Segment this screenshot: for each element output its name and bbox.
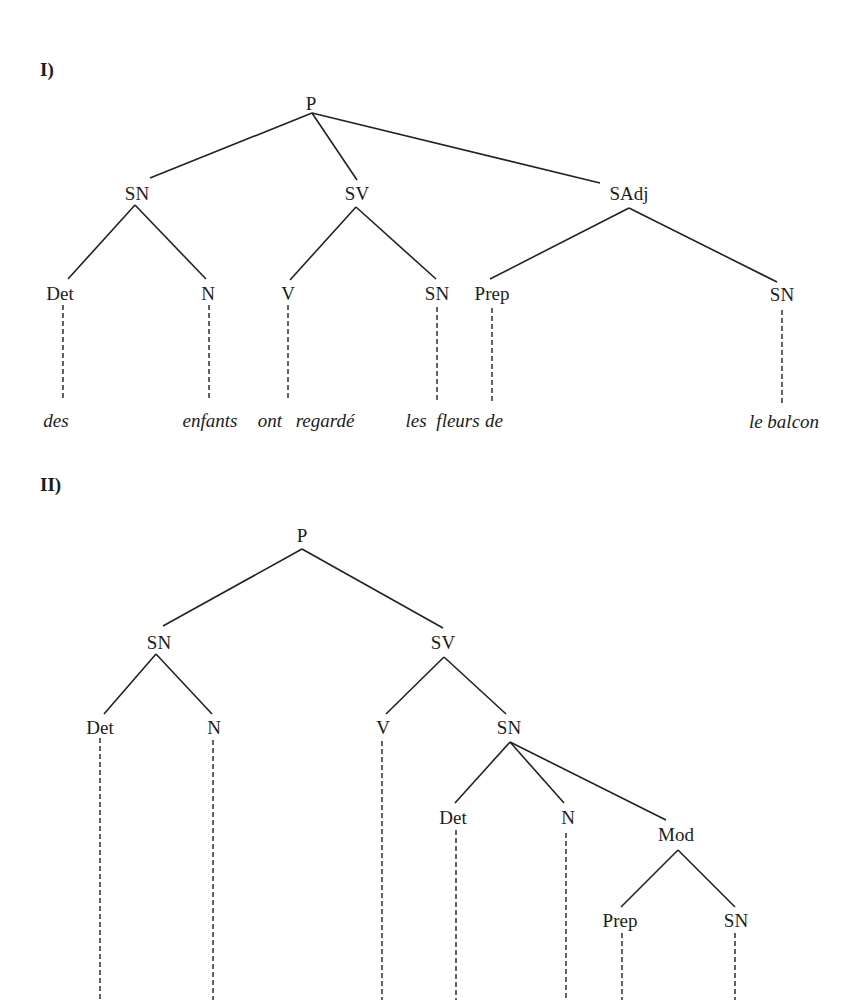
- node-sn2: SN: [497, 718, 521, 737]
- node-sadj: SAdj: [609, 184, 648, 203]
- branch-Mod-Prep: [621, 850, 678, 907]
- node-det: Det: [46, 284, 73, 303]
- branch-SN1-N1: [156, 654, 212, 714]
- node-p: P: [306, 94, 317, 113]
- branch-SV-V: [386, 657, 444, 714]
- node-n2: N: [561, 808, 575, 827]
- terminal-word: regardé: [296, 411, 355, 430]
- section-label-I: I): [40, 60, 54, 79]
- node-prep: Prep: [603, 911, 638, 930]
- branch-SN1-N: [135, 205, 206, 279]
- branch-SN2-Mod: [510, 742, 666, 820]
- node-sv: SV: [345, 184, 369, 203]
- node-det1: Det: [86, 718, 113, 737]
- node-mod: Mod: [658, 825, 694, 844]
- branch-SN1-Det: [68, 205, 135, 279]
- branch-P-SAdj: [312, 113, 600, 183]
- node-n: N: [201, 284, 215, 303]
- node-sn3: SN: [724, 911, 748, 930]
- branch-SN2-N2: [510, 742, 564, 803]
- branch-SAdj-Prep: [490, 208, 629, 279]
- terminal-word: fleurs: [436, 411, 479, 430]
- node-p: P: [297, 526, 308, 545]
- branch-SV-SN2: [444, 657, 506, 714]
- node-sn1: SN: [125, 184, 149, 203]
- node-det2: Det: [439, 808, 466, 827]
- terminal-word: les: [405, 411, 426, 430]
- node-n1: N: [207, 718, 221, 737]
- branch-SV-SN2: [356, 207, 436, 279]
- node-prep: Prep: [475, 284, 510, 303]
- terminal-word: des: [43, 411, 68, 430]
- branch-P-SN1: [150, 113, 312, 178]
- branch-SN1-Det1: [104, 654, 156, 714]
- branch-Mod-SN3: [678, 850, 735, 907]
- branch-P-SV: [302, 549, 443, 628]
- section-label-II: II): [40, 475, 61, 494]
- node-v: V: [376, 718, 390, 737]
- tree-edges-layer: [0, 0, 848, 1004]
- branch-SV-V: [290, 207, 356, 280]
- branch-SAdj-SN3: [629, 208, 777, 282]
- node-sn2: SN: [425, 284, 449, 303]
- node-sn1: SN: [147, 633, 171, 652]
- terminal-word: de: [485, 411, 503, 430]
- terminal-word: enfants: [183, 411, 238, 430]
- node-sv: SV: [431, 633, 455, 652]
- branch-P-SN1: [163, 549, 302, 626]
- terminal-word: ont: [258, 411, 282, 430]
- node-v: V: [281, 284, 295, 303]
- branch-SN2-Det2: [455, 742, 510, 803]
- node-sn3: SN: [770, 285, 794, 304]
- syntax-tree-diagram: I)PSNSVSAdjDetNVSNPrepSNdesenfantsontreg…: [0, 0, 848, 1004]
- terminal-word: le balcon: [749, 412, 819, 431]
